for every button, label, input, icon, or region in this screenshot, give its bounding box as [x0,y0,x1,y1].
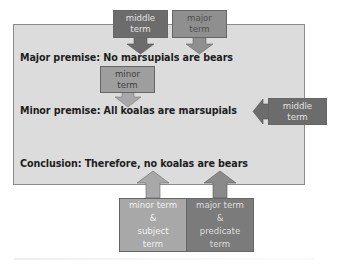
label-line: & [120,212,186,225]
middle-term-label-top: middle term [113,10,168,38]
label-line: predicate [187,225,253,238]
minor-premise: Minor premise: All koalas are marsupials [20,105,237,116]
arrow-up-icon [203,171,237,199]
middle-term-label-right: middle term [268,98,327,125]
label-line: term [269,112,326,123]
label-line: & [187,212,253,225]
label-line: term [114,24,167,35]
label-line: middle [269,101,326,112]
major-premise: Major premise: No marsupials are bears [20,52,233,63]
label-line: term [187,238,253,251]
label-line: minor [101,69,154,80]
label-line: middle [114,13,167,24]
major-predicate-term-label: major term & predicate term [186,198,254,252]
conclusion: Conclusion: Therefore, no koalas are bea… [20,158,248,169]
arrow-up-icon [136,171,170,199]
label-line: minor term [120,199,186,212]
minor-term-label: minor term [100,66,155,93]
major-term-label-top: major term [172,10,227,38]
label-line: term [173,24,226,35]
faint-caption-line [14,258,314,260]
label-line: term [101,80,154,91]
label-line: term [120,238,186,251]
label-line: major [173,13,226,24]
minor-subject-term-label: minor term & subject term [119,198,187,252]
label-line: subject [120,225,186,238]
label-line: major term [187,199,253,212]
